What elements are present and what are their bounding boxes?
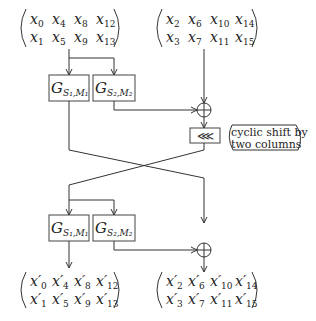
matrix-entry: x′15 [235,291,258,309]
matrix-entry: x′5 [52,291,69,309]
matrix-entry: x10 [210,11,230,29]
feistel-diagram: x0x4x8x12x1x5x9x13 x2x6x10x14x3x7x11x15 … [0,0,316,321]
matrix-entry: x13 [96,29,116,47]
matrix-entry: x′4 [52,273,69,291]
wire [114,241,197,250]
matrix-entry: x6 [188,11,202,29]
svg-text:two columns: two columns [231,138,302,151]
xor-bottom [197,243,211,257]
matrix-entry: x4 [52,11,66,29]
matrix-entry: x′3 [166,291,183,309]
matrix-entry: x11 [210,29,229,47]
matrix-entry: x′12 [96,273,119,291]
matrix-entry: x′11 [210,291,233,309]
matrix-entry: x′9 [74,291,91,309]
xor-top [197,103,211,117]
matrix-entry: x5 [52,29,66,47]
output-matrix-right: x′2x′6x′10x′14x′3x′7x′11x′15 [157,272,258,309]
shift-annotation: cyclic shift by two columns [229,125,308,151]
matrix-entry: x7 [188,29,202,47]
matrix-entry: x′1 [30,291,47,309]
cross-wire-right-to-left [69,150,204,200]
matrix-entry: x15 [235,29,255,47]
shift-icon: ⋘ [197,129,214,143]
matrix-entry: x′8 [74,273,91,291]
output-matrix-left: x′0x′4x′8x′12x′1x′5x′9x′13 [21,272,119,309]
matrix-entry: x′0 [30,273,47,291]
matrix-entry: x9 [74,29,88,47]
matrix-entry: x′7 [188,291,205,309]
matrix-entry: x3 [166,29,180,47]
left-paren [21,9,26,47]
input-matrix-left: x0x4x8x12x1x5x9x13 [21,9,119,47]
input-matrix-right: x2x6x10x14x3x7x11x15 [157,9,257,47]
matrix-entry: x′10 [210,273,233,291]
matrix-entry: x14 [235,11,255,29]
matrix-entry: x0 [30,11,44,29]
cross-wire-left-to-right [69,150,204,223]
matrix-entry: x8 [74,11,88,29]
left-paren [157,9,162,47]
matrix-entry: x′13 [96,291,119,309]
wire [114,101,197,110]
matrix-entry: x2 [166,11,180,29]
matrix-entry: x1 [30,29,44,47]
matrix-entry: x′2 [166,273,183,291]
matrix-entry: x12 [96,11,115,29]
matrix-entry: x′6 [188,273,205,291]
